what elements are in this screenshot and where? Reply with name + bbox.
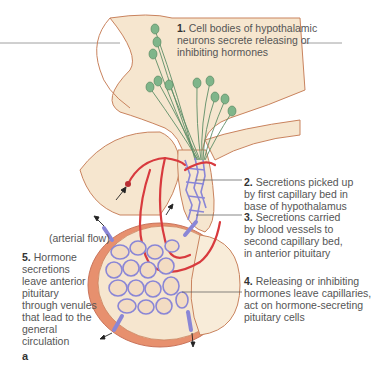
annotation-1-number: 1.: [177, 22, 186, 34]
annotation-2-text: Secretions picked up by first capillary …: [244, 176, 353, 212]
annotation-2: 2.Secretions picked up by first capillar…: [244, 176, 384, 212]
annotation-5-text: Hormone secretions leave anterior pituit…: [22, 251, 97, 347]
arterial-flow-label: (arterial flow): [49, 232, 110, 244]
annotation-1-text: Cell bodies of hypothalamic neurons secr…: [177, 22, 317, 58]
annotation-1: 1.Cell bodies of hypothalamic neurons se…: [177, 22, 337, 58]
posterior-pituitary: [191, 235, 240, 335]
annotation-3-text: Secretions carried by blood vessels to s…: [244, 211, 343, 259]
tissue-right-arm: [205, 120, 300, 160]
annotation-4-text: Releasing or inhibiting hormones leave c…: [244, 275, 371, 323]
tissue-lower-left: [80, 132, 180, 215]
annotation-5-number: 5.: [22, 251, 31, 263]
annotation-5: 5.Hormone secretions leave anterior pitu…: [22, 251, 102, 347]
annotation-4: 4.Releasing or inhibiting hormones leave…: [244, 275, 384, 323]
annotation-3-number: 3.: [244, 211, 253, 223]
annotation-3: 3.Secretions carried by blood vessels to…: [244, 211, 384, 259]
artery-opening: [125, 181, 131, 187]
annotation-4-number: 4.: [244, 275, 253, 287]
panel-label: a: [22, 350, 28, 362]
annotation-2-number: 2.: [244, 176, 253, 188]
